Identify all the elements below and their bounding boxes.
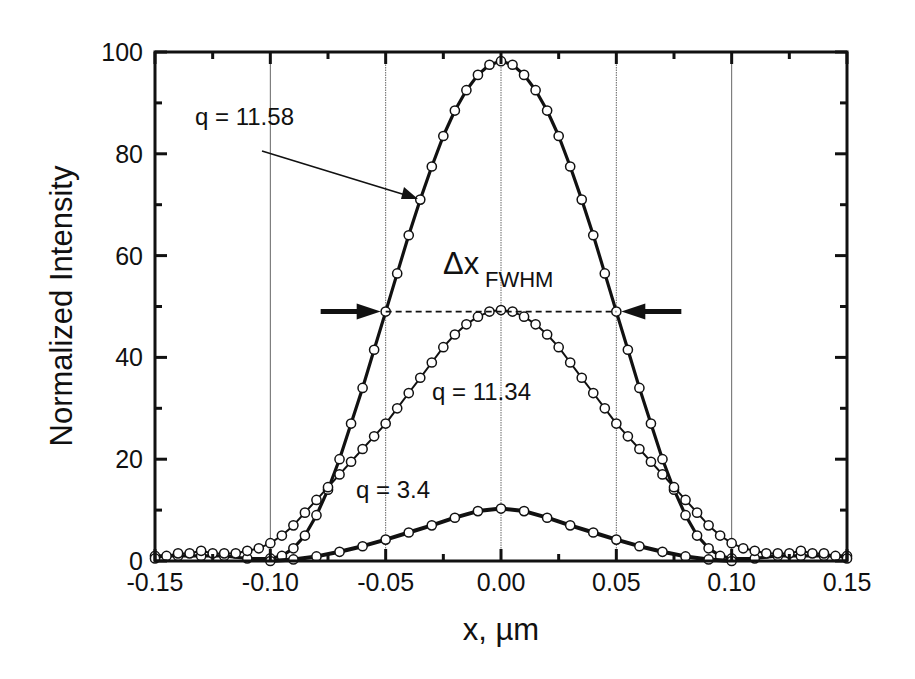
data-point (312, 511, 321, 520)
y-tick-label: 0 (129, 547, 143, 575)
data-point (543, 513, 552, 522)
data-point (496, 305, 505, 314)
x-tick-label: -0.05 (357, 568, 414, 596)
data-point (704, 555, 713, 564)
data-point (531, 320, 540, 329)
data-point (370, 345, 379, 354)
data-point (243, 546, 252, 555)
data-point (473, 312, 482, 321)
data-point (543, 330, 552, 339)
x-tick-label: 0.10 (707, 568, 756, 596)
data-point (739, 544, 748, 553)
data-point (554, 131, 563, 140)
data-point (370, 432, 379, 441)
data-point (600, 269, 609, 278)
data-point (612, 419, 621, 428)
data-point (566, 358, 575, 367)
data-point (508, 60, 517, 69)
data-point (796, 546, 805, 555)
x-tick-label: 0.00 (477, 568, 526, 596)
x-tick-label: 0.05 (592, 568, 641, 596)
data-point (462, 320, 471, 329)
data-point (393, 404, 402, 413)
data-point (600, 404, 609, 413)
data-point (519, 507, 528, 516)
data-point (819, 549, 828, 558)
data-point (496, 504, 505, 513)
data-point (289, 521, 298, 530)
data-point (173, 549, 182, 558)
data-point (312, 495, 321, 504)
data-point (450, 330, 459, 339)
data-point (335, 547, 344, 556)
data-point (450, 513, 459, 522)
svg-text:Δx: Δx (443, 246, 480, 281)
data-point (197, 546, 206, 555)
data-point (635, 444, 644, 453)
x-axis-title: x, µm (463, 612, 539, 647)
data-point (416, 373, 425, 382)
data-point (358, 542, 367, 551)
data-point (473, 507, 482, 516)
annotation-q-3-4: q = 3.4 (356, 476, 430, 503)
data-point (300, 531, 309, 540)
y-tick-label: 100 (101, 38, 143, 66)
data-point (716, 531, 725, 540)
data-point (566, 162, 575, 171)
data-point (808, 549, 817, 558)
data-point (577, 373, 586, 382)
data-point (658, 547, 667, 556)
data-point (300, 508, 309, 517)
data-point (289, 544, 298, 553)
annotation-q-11-58: q = 11.58 (195, 103, 294, 130)
arrow-q-11-58 (262, 151, 418, 199)
data-point (704, 521, 713, 530)
data-point (358, 444, 367, 453)
data-point (669, 483, 678, 492)
data-point (266, 539, 275, 548)
data-point (612, 307, 621, 316)
data-point (519, 312, 528, 321)
data-point (427, 521, 436, 530)
data-point (462, 86, 471, 95)
data-point (681, 511, 690, 520)
data-point (335, 470, 344, 479)
data-point (750, 546, 759, 555)
data-point (473, 70, 482, 79)
data-point (704, 544, 713, 553)
data-point (646, 457, 655, 466)
y-tick-labels: 020406080100 (101, 38, 143, 575)
data-point (831, 551, 840, 560)
data-point (404, 388, 413, 397)
data-point (531, 86, 540, 95)
data-point (346, 457, 355, 466)
data-point (220, 549, 229, 558)
data-point (543, 106, 552, 115)
data-point (277, 531, 286, 540)
data-point (681, 495, 690, 504)
svg-text:FWHM: FWHM (485, 267, 553, 292)
data-point (566, 521, 575, 530)
data-point (519, 70, 528, 79)
x-tick-label: 0.15 (823, 568, 872, 596)
data-point (692, 531, 701, 540)
data-point (346, 419, 355, 428)
data-point (427, 162, 436, 171)
x-tick-labels: -0.15-0.10-0.050.000.050.100.15 (127, 568, 872, 596)
data-point (658, 455, 667, 464)
y-tick-label: 80 (115, 140, 143, 168)
data-point (427, 358, 436, 367)
data-point (554, 343, 563, 352)
x-tick-label: -0.10 (242, 568, 299, 596)
data-point (416, 195, 425, 204)
data-point (335, 455, 344, 464)
data-point (623, 432, 632, 441)
data-point (646, 419, 655, 428)
data-point (589, 388, 598, 397)
y-tick-label: 60 (115, 242, 143, 270)
data-point (773, 549, 782, 558)
data-point (404, 231, 413, 240)
data-point (439, 343, 448, 352)
annotation-delta-x-fwhm: Δx FWHM (443, 246, 553, 292)
data-point (254, 544, 263, 553)
